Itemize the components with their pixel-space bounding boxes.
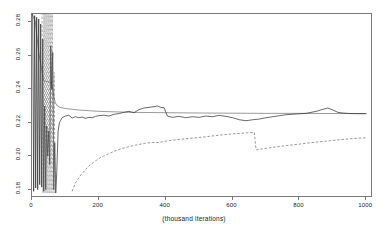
x-tick-label: 600 bbox=[217, 202, 247, 208]
y-tick-label: 0.28 bbox=[15, 12, 21, 28]
y-tick-label: 0.20 bbox=[15, 146, 21, 162]
plot-frame bbox=[31, 13, 372, 197]
x-axis-title: (thousand iterations) bbox=[0, 215, 388, 222]
x-tick bbox=[31, 197, 32, 200]
plot-canvas bbox=[32, 14, 373, 198]
x-tick-label: 1000 bbox=[350, 202, 380, 208]
y-tick bbox=[28, 122, 31, 123]
x-tick bbox=[298, 197, 299, 200]
x-tick bbox=[98, 197, 99, 200]
y-tick bbox=[28, 55, 31, 56]
figure-root: 02004006008001000 0.180.200.220.240.260.… bbox=[0, 0, 388, 234]
x-tick-label: 400 bbox=[150, 202, 180, 208]
series-dashed-lower-chain bbox=[72, 132, 366, 191]
series-reference-level bbox=[32, 14, 366, 114]
y-tick bbox=[28, 155, 31, 156]
y-tick bbox=[28, 189, 31, 190]
x-tick bbox=[165, 197, 166, 200]
y-tick-label: 0.18 bbox=[15, 180, 21, 196]
y-tick-label: 0.26 bbox=[15, 46, 21, 62]
x-tick-label: 800 bbox=[283, 202, 313, 208]
y-tick-label: 0.22 bbox=[15, 113, 21, 129]
series-noisy-upper-chain bbox=[33, 14, 367, 193]
y-tick bbox=[28, 21, 31, 22]
y-tick-label: 0.24 bbox=[15, 79, 21, 95]
x-tick bbox=[232, 197, 233, 200]
x-tick-label: 200 bbox=[83, 202, 113, 208]
y-tick bbox=[28, 88, 31, 89]
x-tick bbox=[365, 197, 366, 200]
x-tick-label: 0 bbox=[16, 202, 46, 208]
